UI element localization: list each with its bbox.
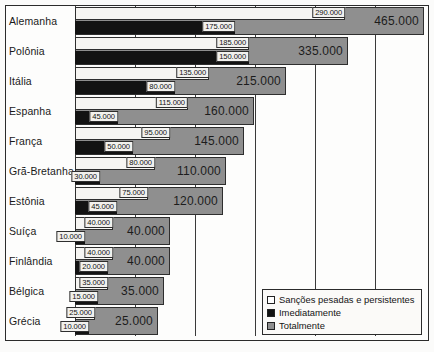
legend-item: Imediatamente [267, 306, 417, 319]
bar-group: 115.00045.000160.000 [75, 96, 429, 126]
legend-item: Totalmente [267, 319, 417, 332]
value-label-sancoes: 115.000 [156, 97, 188, 108]
chart-root: Alemanha290.000175.000465.000Polônia185.… [0, 0, 434, 352]
value-label-totalmente: 335.000 [298, 44, 348, 58]
value-label-imediatamente: 45.000 [88, 201, 117, 212]
value-label-sancoes: 185.000 [216, 37, 249, 48]
value-label-totalmente: 25.000 [115, 314, 158, 328]
bar-row: Suíça40.00010.00040.000 [5, 216, 429, 246]
chart-legend: Sanções pesadas e persistentes Imediatam… [262, 289, 422, 335]
value-label-totalmente: 160.000 [204, 104, 254, 118]
value-label-sancoes: 75.000 [119, 187, 148, 198]
bar-row: Itália135.00080.000215.000 [5, 66, 429, 96]
value-label-sancoes: 80.000 [126, 157, 155, 168]
value-label-imediatamente: 10.000 [60, 321, 89, 332]
value-label-imediatamente: 30.000 [71, 171, 100, 182]
legend-swatch-gray-icon [267, 322, 275, 330]
bar-row: Grã-Bretanha80.00030.000110.000 [5, 156, 429, 186]
value-label-totalmente: 145.000 [194, 134, 244, 148]
value-label-totalmente: 40.000 [127, 224, 170, 238]
value-label-totalmente: 40.000 [127, 254, 170, 268]
bar-row: Alemanha290.000175.000465.000 [5, 6, 429, 36]
bar-group: 40.00020.00040.000 [75, 246, 429, 276]
category-label: Espanha [9, 105, 51, 117]
value-label-totalmente: 35.000 [121, 284, 164, 298]
bar-sancoes [75, 7, 345, 20]
value-label-sancoes: 135.000 [176, 67, 209, 78]
bar-row: Finlândia40.00020.00040.000 [5, 246, 429, 276]
value-label-imediatamente: 150.000 [216, 51, 249, 62]
category-label: Finlândia [9, 255, 53, 267]
value-label-imediatamente: 45.000 [89, 111, 118, 122]
value-label-imediatamente: 20.000 [79, 261, 108, 272]
value-label-imediatamente: 10.000 [56, 231, 85, 242]
legend-swatch-white-icon [267, 296, 275, 304]
category-label: Grécia [9, 315, 41, 327]
bar-group: 80.00030.000110.000 [75, 156, 429, 186]
value-label-sancoes: 290.000 [312, 7, 345, 18]
value-label-imediatamente: 50.000 [104, 141, 133, 152]
value-label-imediatamente: 175.000 [202, 21, 235, 32]
category-label: Estônia [9, 195, 45, 207]
legend-swatch-black-icon [267, 309, 275, 317]
value-label-sancoes: 25.000 [66, 307, 95, 318]
bar-row: Polônia185.000150.000335.000 [5, 36, 429, 66]
value-label-totalmente: 110.000 [177, 164, 226, 178]
value-label-imediatamente: 80.000 [146, 81, 175, 92]
legend-label: Sanções pesadas e persistentes [279, 294, 415, 305]
value-label-totalmente: 215.000 [236, 74, 286, 88]
bar-rows: Alemanha290.000175.000465.000Polônia185.… [5, 6, 429, 336]
value-label-sancoes: 40.000 [84, 217, 113, 228]
bar-row: Espanha115.00045.000160.000 [5, 96, 429, 126]
bar-group: 290.000175.000465.000 [75, 6, 429, 36]
category-label: Suíça [9, 225, 36, 237]
value-label-totalmente: 465.000 [374, 14, 424, 28]
bar-group: 135.00080.000215.000 [75, 66, 429, 96]
value-label-sancoes: 35.000 [79, 277, 108, 288]
value-label-sancoes: 95.000 [141, 127, 170, 138]
bar-group: 40.00010.00040.000 [75, 216, 429, 246]
value-label-totalmente: 120.000 [173, 194, 223, 208]
value-label-imediatamente: 15.000 [69, 291, 98, 302]
category-label: Polônia [9, 45, 45, 57]
bar-row: França95.00050.000145.000 [5, 126, 429, 156]
bar-group: 95.00050.000145.000 [75, 126, 429, 156]
category-label: Itália [9, 75, 32, 87]
category-label: França [9, 135, 42, 147]
value-label-sancoes: 40.000 [84, 247, 113, 258]
legend-item: Sanções pesadas e persistentes [267, 293, 417, 306]
bar-group: 75.00045.000120.000 [75, 186, 429, 216]
bar-group: 185.000150.000335.000 [75, 36, 429, 66]
legend-label: Totalmente [279, 320, 325, 331]
legend-label: Imediatamente [279, 307, 341, 318]
category-label: Bélgica [9, 285, 44, 297]
category-label: Grã-Bretanha [9, 165, 74, 177]
category-label: Alemanha [9, 15, 57, 27]
bar-row: Estônia75.00045.000120.000 [5, 186, 429, 216]
